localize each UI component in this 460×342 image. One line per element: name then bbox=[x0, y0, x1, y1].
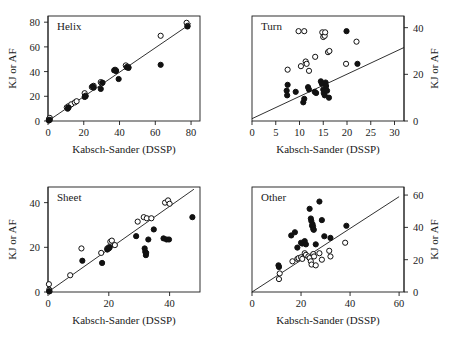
x-axis: 051015202530 bbox=[249, 121, 399, 138]
y-tick-label: 20 bbox=[413, 69, 424, 80]
data-point bbox=[302, 29, 307, 34]
data-point bbox=[295, 245, 300, 250]
figure-container: 020406080Kabsch-Sander (DSSP)020406080KJ… bbox=[0, 0, 460, 342]
data-point bbox=[303, 242, 308, 247]
data-point bbox=[276, 264, 281, 269]
data-point bbox=[292, 230, 297, 235]
data-point bbox=[354, 39, 359, 44]
data-point bbox=[355, 61, 360, 66]
panel-title: Turn bbox=[261, 20, 282, 32]
y-tick-label: 40 bbox=[30, 198, 41, 209]
panel-sheet: 02040Kabsch-Sander (DSSP)02040KJ or AFSh… bbox=[0, 171, 230, 342]
series-filled bbox=[47, 215, 195, 294]
panel-turn: 051015202530Kabsch-Sander (DSSP)02040KJ … bbox=[230, 0, 460, 171]
data-point bbox=[298, 64, 303, 69]
y-axis: 02040 bbox=[404, 16, 424, 127]
data-point bbox=[304, 61, 309, 66]
data-point bbox=[290, 259, 295, 264]
data-point bbox=[100, 260, 105, 265]
data-point bbox=[344, 223, 349, 228]
x-axis-title: Kabsch-Sander (DSSP) bbox=[276, 314, 380, 327]
data-point bbox=[326, 95, 331, 100]
x-tick-label: 5 bbox=[273, 127, 278, 138]
data-point bbox=[144, 250, 149, 255]
data-point bbox=[149, 216, 154, 221]
x-tick-label: 20 bbox=[296, 298, 307, 309]
data-point bbox=[134, 234, 139, 239]
data-point bbox=[319, 218, 324, 223]
y-tick-label: 0 bbox=[413, 116, 418, 127]
data-point bbox=[328, 235, 333, 240]
data-point bbox=[190, 215, 195, 220]
data-point bbox=[343, 61, 348, 66]
y-axis-title: KJ or AF bbox=[428, 219, 440, 259]
series-filled bbox=[284, 29, 360, 105]
data-point bbox=[107, 245, 112, 250]
x-tick-label: 25 bbox=[366, 127, 377, 138]
x-axis: 020406080 bbox=[45, 121, 196, 138]
data-point bbox=[98, 86, 103, 91]
data-point bbox=[47, 289, 52, 294]
y-axis-title: KJ or AF bbox=[428, 48, 440, 88]
data-point bbox=[66, 105, 71, 110]
x-tick-label: 30 bbox=[389, 127, 400, 138]
y-axis-title: KJ or AF bbox=[6, 48, 18, 88]
data-point bbox=[322, 234, 327, 239]
data-point bbox=[319, 257, 324, 262]
x-tick-label: 40 bbox=[114, 127, 125, 138]
data-point bbox=[328, 254, 333, 259]
y-tick-label: 0 bbox=[35, 116, 40, 127]
data-point bbox=[285, 93, 290, 98]
data-point bbox=[112, 242, 117, 247]
data-point bbox=[113, 68, 118, 73]
data-point bbox=[323, 30, 328, 35]
data-point bbox=[83, 94, 88, 99]
x-tick-label: 20 bbox=[342, 127, 353, 138]
x-tick-label: 0 bbox=[45, 298, 50, 309]
y-axis: 02040 bbox=[30, 187, 49, 298]
y-tick-label: 40 bbox=[413, 222, 424, 233]
panel-other: 0204060Kabsch-Sander (DSSP)0204060KJ or … bbox=[230, 171, 460, 342]
data-point bbox=[343, 240, 348, 245]
y-axis: 020406080 bbox=[30, 16, 49, 127]
y-axis: 0204060 bbox=[404, 187, 424, 298]
x-tick-label: 40 bbox=[345, 298, 356, 309]
x-tick-label: 20 bbox=[104, 298, 115, 309]
y-tick-label: 0 bbox=[35, 287, 40, 298]
data-point bbox=[307, 206, 312, 211]
data-point bbox=[311, 254, 316, 259]
plot-area-helix: 020406080Kabsch-Sander (DSSP)020406080KJ… bbox=[0, 0, 230, 171]
y-tick-label: 20 bbox=[30, 242, 41, 253]
data-point bbox=[74, 99, 79, 104]
data-point bbox=[327, 248, 332, 253]
data-point bbox=[46, 282, 51, 287]
x-tick-label: 40 bbox=[164, 298, 175, 309]
panel-title: Helix bbox=[57, 20, 82, 32]
data-point bbox=[313, 242, 318, 247]
x-tick-label: 0 bbox=[249, 127, 254, 138]
y-tick-label: 60 bbox=[30, 42, 41, 53]
data-point bbox=[285, 67, 290, 72]
x-tick-label: 60 bbox=[150, 127, 161, 138]
data-point bbox=[166, 237, 171, 242]
data-point bbox=[317, 199, 322, 204]
series-open bbox=[285, 29, 359, 74]
data-point bbox=[313, 263, 318, 268]
data-point bbox=[68, 273, 73, 278]
y-tick-label: 40 bbox=[30, 67, 41, 78]
plot-area-turn: 051015202530Kabsch-Sander (DSSP)02040KJ … bbox=[230, 0, 460, 171]
data-point bbox=[158, 33, 163, 38]
data-point bbox=[126, 65, 131, 70]
data-point bbox=[158, 62, 163, 67]
x-axis-title: Kabsch-Sander (DSSP) bbox=[72, 314, 176, 327]
data-point bbox=[146, 237, 151, 242]
x-tick-label: 0 bbox=[45, 127, 50, 138]
data-point bbox=[306, 87, 311, 92]
data-point bbox=[296, 29, 301, 34]
data-point bbox=[99, 250, 104, 255]
y-tick-label: 40 bbox=[413, 23, 424, 34]
x-axis: 02040 bbox=[45, 292, 174, 309]
x-tick-label: 60 bbox=[394, 298, 405, 309]
y-tick-label: 80 bbox=[30, 17, 41, 28]
y-tick-label: 20 bbox=[30, 91, 41, 102]
